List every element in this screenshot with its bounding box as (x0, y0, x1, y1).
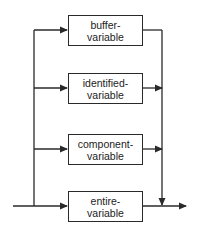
box-entire-variable: entire- variable (68, 191, 143, 222)
box-label-line2: variable (87, 150, 124, 162)
box-label-line2: variable (87, 207, 124, 219)
box-identified-variable: identified- variable (68, 73, 143, 104)
box-component-variable: component- variable (68, 134, 143, 165)
box-label-line1: component- (78, 138, 133, 150)
box-label-line1: buffer- (90, 19, 120, 31)
box-label-line2: variable (87, 89, 124, 101)
box-buffer-variable: buffer- variable (68, 15, 143, 46)
box-label-line1: identified- (83, 77, 129, 89)
box-label-line1: entire- (91, 195, 121, 207)
box-label-line2: variable (87, 31, 124, 43)
